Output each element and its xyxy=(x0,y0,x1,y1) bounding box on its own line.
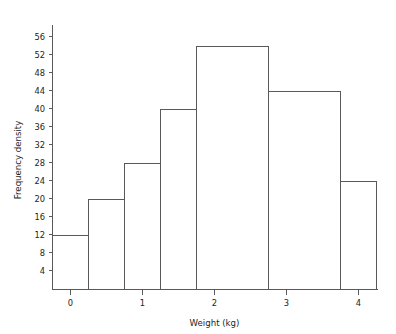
y-tick-label: 48 xyxy=(34,68,45,78)
y-tick-label: 56 xyxy=(34,32,45,42)
bar-2 xyxy=(89,200,125,290)
y-tick-label: 52 xyxy=(34,50,45,60)
y-axis-title: Frequency density xyxy=(13,121,23,200)
y-tick-label: 12 xyxy=(34,230,45,240)
x-axis-title: Weight (kg) xyxy=(190,318,240,328)
y-tick-label: 40 xyxy=(34,104,45,114)
bar-4 xyxy=(161,110,197,290)
bar-3 xyxy=(125,164,161,290)
y-axis-ticks xyxy=(49,37,53,271)
y-tick-label: 4 xyxy=(40,266,45,276)
histogram-bars xyxy=(53,47,377,290)
y-tick-label: 16 xyxy=(34,212,45,222)
y-tick-label: 28 xyxy=(34,158,45,168)
x-axis-ticks xyxy=(71,290,359,295)
y-tick-label: 36 xyxy=(34,122,45,132)
bar-1 xyxy=(53,236,89,290)
y-tick-label: 44 xyxy=(34,86,45,96)
bar-7 xyxy=(341,182,377,290)
chart-canvas: 4 8 12 16 20 24 28 32 36 40 44 48 52 56 … xyxy=(0,0,396,334)
y-tick-label: 20 xyxy=(34,194,45,204)
x-tick-label: 4 xyxy=(356,298,361,308)
bar-6 xyxy=(269,92,341,290)
y-tick-label: 8 xyxy=(40,248,45,258)
x-tick-label: 2 xyxy=(212,298,217,308)
bar-5 xyxy=(197,47,269,290)
y-tick-label: 24 xyxy=(34,176,45,186)
x-tick-label: 0 xyxy=(68,298,73,308)
x-tick-label: 1 xyxy=(140,298,145,308)
histogram-chart: 4 8 12 16 20 24 28 32 36 40 44 48 52 56 … xyxy=(0,0,396,334)
y-tick-label: 32 xyxy=(34,140,45,150)
x-tick-label: 3 xyxy=(284,298,289,308)
